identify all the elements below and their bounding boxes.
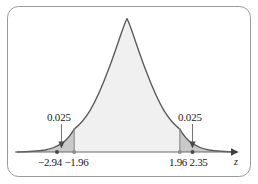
axis-label-z: z (234, 156, 238, 167)
point-marker-1-96 (178, 150, 182, 154)
right-tail-area-label: 0.025 (178, 111, 202, 123)
point-marker-minus-1-96 (72, 150, 76, 154)
right-tick-labels: 1.96 2.35 (169, 156, 208, 168)
normal-distribution-figure: 0.025 0.025 −2.94 −1.96 1.96 2.35 z (0, 0, 258, 184)
left-tick-labels: −2.94 −1.96 (38, 156, 88, 168)
point-marker-minus-2-94 (55, 150, 59, 154)
curve-body-fill (74, 19, 180, 152)
left-tail-area-label: 0.025 (47, 111, 71, 123)
point-marker-2-35 (191, 150, 195, 154)
axis-arrowhead-icon (231, 148, 239, 155)
